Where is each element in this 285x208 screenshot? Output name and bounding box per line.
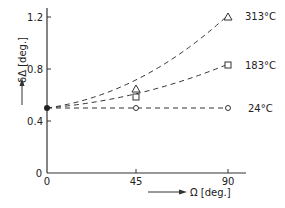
triangle-marker-313c-45 [132, 85, 140, 92]
square-marker-183c-90 [225, 62, 231, 68]
x-tick-label-45: 45 [130, 176, 143, 187]
circle-marker-24c-45 [134, 106, 139, 111]
circle-marker-24c-90 [226, 106, 231, 111]
y-axis-label-group: δΔ [deg.] [17, 37, 28, 83]
y-axis-label: δΔ [deg.] [17, 37, 28, 83]
square-marker-183c-45 [133, 94, 139, 100]
x-tick-label-90: 90 [222, 176, 235, 187]
series-label-313c: 313°C [245, 11, 276, 22]
series-label-183c: 183°C [245, 60, 276, 71]
start-point-marker [44, 105, 50, 111]
y-tick-label-0-4: 0.4 [27, 116, 43, 127]
x-tick-label-0: 0 [44, 176, 50, 187]
y-tick-label-1-2: 1.2 [27, 12, 43, 23]
y-tick-label-0: 0 [36, 168, 42, 179]
y-tick-label-0-8: 0.8 [27, 64, 43, 75]
x-axis-arrow-icon [179, 190, 187, 195]
series-label-24c: 24°C [248, 103, 273, 114]
triangle-marker-313c-90 [224, 13, 232, 20]
chart-canvas: 1.2 0.8 0.4 0 0 45 90 δΔ [deg.] Ω [deg.]… [0, 0, 285, 208]
x-axis-label: Ω [deg.] [190, 187, 231, 198]
